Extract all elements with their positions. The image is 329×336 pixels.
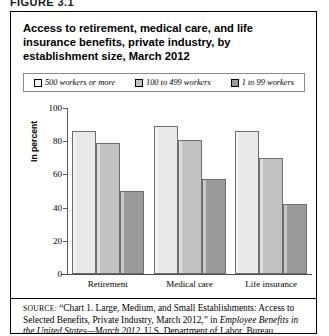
plot-area: 020406080100 RetirementMedical careLife …: [67, 108, 312, 274]
legend-swatch-series2: [135, 79, 143, 87]
bar[interactable]: [178, 140, 202, 274]
x-axis-category-label: Medical care: [166, 279, 213, 289]
chart-title: Access to retirement, medical care, and …: [23, 21, 307, 63]
legend-item-1-to-99-workers[interactable]: 1 to 99 workers: [231, 78, 294, 87]
x-axis-line: [61, 274, 312, 275]
legend-swatch-series3: [231, 79, 239, 87]
y-tick-label-60: 60: [53, 169, 62, 179]
figure-label: FIGURE 3.1: [10, 0, 74, 8]
y-tick-label-20: 20: [53, 236, 62, 246]
y-axis-title: In percent: [29, 121, 39, 162]
figure-box: Access to retirement, medical care, and …: [10, 11, 317, 334]
bar[interactable]: [120, 191, 144, 274]
bar-group: Life insurance: [230, 108, 312, 274]
legend-label-series2: 100 to 499 workers: [146, 78, 211, 87]
bar-groups: RetirementMedical careLife insurance: [67, 108, 312, 274]
legend-label-series1: 500 workers or more: [45, 78, 115, 87]
y-tick-label-40: 40: [53, 203, 62, 213]
y-tick-label-80: 80: [53, 136, 62, 146]
bar[interactable]: [202, 179, 226, 274]
bar[interactable]: [235, 131, 259, 274]
bar[interactable]: [283, 204, 307, 274]
legend-swatch-series1: [34, 79, 42, 87]
source-divider: [11, 298, 316, 299]
legend-item-100-to-499-workers[interactable]: 100 to 499 workers: [135, 78, 211, 87]
x-axis-category-label: Retirement: [88, 279, 128, 289]
bar[interactable]: [96, 143, 120, 274]
bar[interactable]: [72, 131, 96, 274]
bar[interactable]: [259, 158, 283, 274]
source-prefix: SOURCE:: [23, 304, 57, 313]
y-tick-label-0: 0: [58, 269, 63, 279]
chart-legend: 500 workers or more 100 to 499 workers 1…: [23, 73, 305, 92]
source-text-2: , U.S. Department of Labor, Bureau: [140, 326, 273, 334]
x-axis-category-label: Life insurance: [245, 279, 297, 289]
source-note: SOURCE: “Chart 1. Large, Medium, and Sma…: [23, 303, 305, 334]
y-tick-label-100: 100: [49, 103, 63, 113]
bar-group: Medical care: [149, 108, 231, 274]
legend-label-series3: 1 to 99 workers: [242, 78, 294, 87]
bar-group: Retirement: [67, 108, 149, 274]
legend-item-500-workers-or-more[interactable]: 500 workers or more: [34, 78, 115, 87]
bar[interactable]: [154, 126, 178, 274]
